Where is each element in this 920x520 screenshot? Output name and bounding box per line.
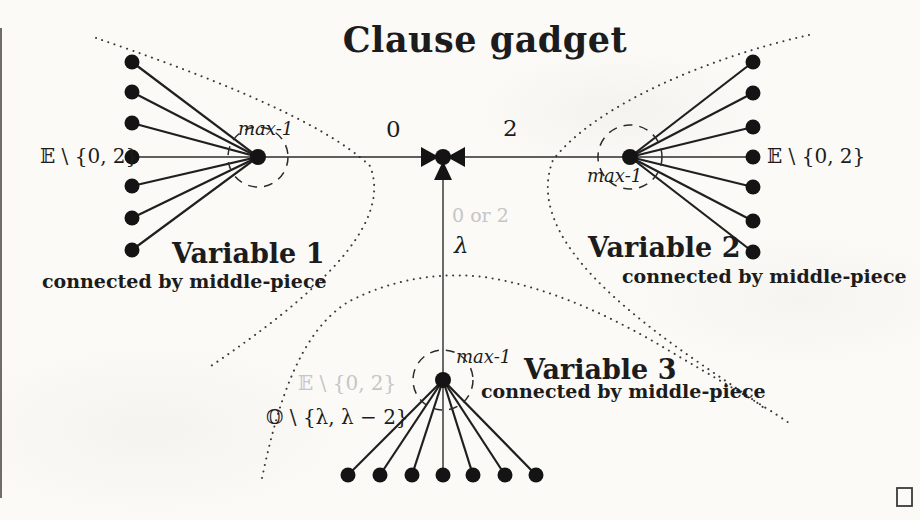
variable3-hub-node [435, 372, 451, 388]
edge-weight-0or2-label: 0 or 2 [452, 206, 509, 226]
clause-gadget-figure: Clause gadget 0 2 0 or 2 λ 𝔼 \ {0, 2} ma… [0, 0, 920, 520]
variable1-fan-edges [132, 62, 258, 250]
qed-square [897, 488, 912, 506]
junction-arrows-icon [421, 147, 465, 180]
diagram-canvas [0, 0, 920, 520]
variable1-set-label: 𝔼 \ {0, 2} [40, 146, 129, 167]
variable1-hub-max-label: max-1 [238, 120, 293, 139]
variable3-subtitle: connected by middle-piece [481, 382, 766, 402]
variable2-subtitle: connected by middle-piece [622, 267, 907, 287]
variable3-even-set-label: 𝔼 \ {0, 2} [298, 373, 396, 394]
variable3-hub-max-label: max-1 [456, 348, 511, 367]
edge-weight-lambda-label: λ [454, 233, 469, 257]
edge-weight-2-label: 2 [503, 116, 518, 140]
variable3-odd-set-label: 𝕆 \ {λ, λ − 2} [266, 407, 409, 428]
variable3-leaf-nodes [341, 468, 544, 483]
edge-weight-0-label: 0 [386, 117, 401, 141]
variable2-hub-max-label: max-1 [587, 167, 642, 186]
variable2-set-label: 𝔼 \ {0, 2} [767, 146, 865, 167]
scan-edge-artifact [0, 28, 2, 498]
variable1-title: Variable 1 [172, 240, 324, 268]
variable2-hub-node [622, 149, 638, 165]
dotted-boundary-variable2 [548, 35, 809, 408]
variable1-hub-node [250, 149, 266, 165]
variable2-title: Variable 2 [588, 234, 740, 262]
variable1-subtitle: connected by middle-piece [42, 272, 327, 292]
figure-title: Clause gadget [325, 22, 645, 59]
variable2-leaf-nodes [746, 55, 761, 260]
